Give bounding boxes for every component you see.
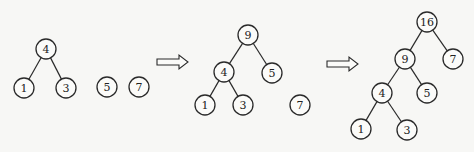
- tree-edge: [210, 81, 219, 97]
- node-label: 4: [221, 66, 228, 79]
- node-label: 1: [21, 82, 28, 95]
- tree-edge: [229, 43, 242, 63]
- tree-node: 3: [56, 78, 76, 98]
- tree-node: 4: [372, 83, 392, 103]
- tree-node: 9: [395, 49, 415, 69]
- tree-node: 4: [36, 39, 56, 59]
- tree-node: 3: [397, 120, 417, 140]
- tree-node: 9: [238, 25, 258, 45]
- node-label: 4: [379, 87, 386, 100]
- node-label: 3: [404, 124, 411, 137]
- tree-node: 7: [443, 49, 463, 69]
- double-right-arrow-icon: [157, 55, 188, 69]
- node-label: 4: [43, 43, 50, 56]
- node-label: 16: [420, 16, 434, 29]
- tree-edge: [410, 67, 421, 84]
- node-label: 1: [202, 99, 209, 112]
- tree-node: 5: [97, 77, 117, 97]
- tree-edge: [388, 101, 402, 121]
- node-label: 5: [424, 87, 431, 100]
- arrows-layer: [157, 55, 358, 71]
- tree-edge: [433, 30, 448, 51]
- tree-edge: [253, 43, 266, 64]
- tree-edge: [51, 58, 62, 79]
- tree-node: 5: [262, 63, 282, 83]
- tree-edge: [229, 81, 238, 97]
- node-label: 7: [136, 81, 143, 94]
- tree-edge: [410, 31, 422, 51]
- node-label: 5: [104, 81, 111, 94]
- tree-node: 7: [129, 77, 149, 97]
- tree-edge: [366, 102, 377, 121]
- tree-node: 7: [290, 95, 310, 115]
- tree-edge: [388, 67, 400, 84]
- node-label: 9: [245, 29, 252, 42]
- tree-node: 3: [233, 95, 253, 115]
- nodes-layer: 4135794513716974513: [14, 12, 463, 140]
- tree-merge-diagram: 4135794513716974513: [0, 0, 474, 152]
- tree-node: 1: [195, 95, 215, 115]
- tree-node: 1: [14, 78, 34, 98]
- double-right-arrow-icon: [327, 57, 358, 71]
- node-label: 7: [450, 53, 457, 66]
- tree-node: 1: [351, 119, 371, 139]
- node-label: 9: [402, 53, 409, 66]
- node-label: 7: [297, 99, 304, 112]
- node-label: 3: [63, 82, 70, 95]
- tree-node: 4: [214, 62, 234, 82]
- node-label: 1: [358, 123, 365, 136]
- tree-node: 16: [417, 12, 437, 32]
- tree-node: 5: [417, 83, 437, 103]
- node-label: 5: [269, 67, 276, 80]
- diagram-canvas: 4135794513716974513: [0, 0, 474, 152]
- node-label: 3: [240, 99, 247, 112]
- tree-edge: [29, 58, 41, 80]
